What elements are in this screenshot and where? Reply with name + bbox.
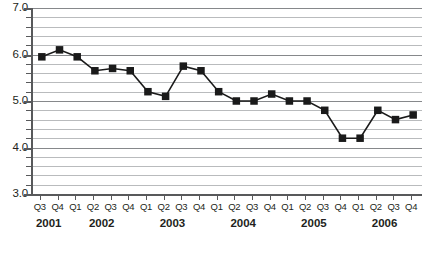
y-axis-major-tick: [24, 55, 31, 57]
x-axis-year-label: 2005: [284, 218, 344, 230]
data-point-marker: [409, 111, 417, 119]
x-axis-tick: [393, 196, 394, 200]
x-axis-year-label: 2003: [142, 218, 202, 230]
x-axis-line: [31, 194, 422, 196]
data-point-marker: [392, 116, 400, 124]
x-axis-year-label: 2004: [213, 218, 273, 230]
y-axis-minor-tick: [26, 17, 31, 18]
y-axis-minor-tick: [26, 157, 31, 158]
y-axis-minor-tick: [26, 175, 31, 176]
y-axis-minor-tick: [26, 120, 31, 121]
data-point-marker: [374, 107, 382, 115]
x-axis-tick: [234, 196, 235, 200]
x-axis-tick: [252, 196, 253, 200]
y-axis-minor-tick: [26, 166, 31, 167]
y-axis-labels: 3.04.05.06.07.0: [0, 0, 28, 255]
data-point-marker: [356, 134, 364, 142]
data-point-marker: [73, 53, 81, 61]
y-axis-minor-tick: [26, 110, 31, 111]
data-point-marker: [268, 90, 276, 98]
x-axis-tick: [40, 196, 41, 200]
y-axis-minor-tick: [26, 45, 31, 46]
x-axis-tick: [287, 196, 288, 200]
x-axis-year-label: 2001: [19, 218, 79, 230]
line-chart: 3.04.05.06.07.0 Q3Q4Q1Q2Q3Q4Q1Q2Q3Q4Q1Q2…: [0, 0, 424, 255]
data-series-line: [42, 50, 413, 138]
data-point-marker: [109, 65, 117, 73]
x-axis-tick: [111, 196, 112, 200]
data-point-marker: [321, 107, 329, 115]
data-point-marker: [215, 88, 223, 96]
y-axis-major-tick: [24, 101, 31, 103]
x-axis-tick: [58, 196, 59, 200]
data-point-marker: [303, 97, 311, 105]
x-axis-tick: [146, 196, 147, 200]
data-point-marker: [127, 67, 135, 75]
data-point-marker: [180, 62, 188, 70]
x-axis-tick: [305, 196, 306, 200]
data-point-marker: [91, 67, 99, 75]
x-axis-tick: [75, 196, 76, 200]
y-axis-major-tick: [24, 148, 31, 150]
data-point-marker: [197, 67, 205, 75]
x-axis-tick: [217, 196, 218, 200]
data-series-layer: [33, 8, 422, 194]
data-series-markers: [38, 46, 417, 142]
x-axis-tick: [181, 196, 182, 200]
x-axis-tick: [93, 196, 94, 200]
x-axis-tick: [323, 196, 324, 200]
x-axis-tick: [164, 196, 165, 200]
x-axis-tick: [270, 196, 271, 200]
data-point-marker: [286, 97, 294, 105]
y-axis-minor-tick: [26, 82, 31, 83]
y-axis-minor-tick: [26, 185, 31, 186]
y-axis-major-tick: [24, 194, 31, 196]
y-axis-minor-tick: [26, 36, 31, 37]
x-axis-tick: [376, 196, 377, 200]
data-point-marker: [339, 134, 347, 142]
y-axis-major-tick: [24, 8, 31, 10]
x-axis-tick: [128, 196, 129, 200]
y-axis-minor-tick: [26, 92, 31, 93]
x-axis-quarter-label: Q4: [398, 202, 424, 212]
data-point-marker: [38, 53, 46, 61]
data-point-marker: [56, 46, 64, 54]
data-point-marker: [250, 97, 258, 105]
data-point-marker: [144, 88, 152, 96]
plot-area: [31, 8, 422, 194]
y-axis-minor-tick: [26, 138, 31, 139]
y-axis-minor-tick: [26, 64, 31, 65]
y-axis-minor-tick: [26, 73, 31, 74]
data-point-marker: [233, 97, 241, 105]
x-axis-year-label: 2002: [72, 218, 132, 230]
x-axis-tick: [358, 196, 359, 200]
y-axis-minor-tick: [26, 27, 31, 28]
x-axis-tick: [340, 196, 341, 200]
data-point-marker: [162, 93, 170, 101]
y-axis-minor-tick: [26, 129, 31, 130]
x-axis-tick: [199, 196, 200, 200]
x-axis-tick: [411, 196, 412, 200]
x-axis-year-label: 2006: [355, 218, 415, 230]
